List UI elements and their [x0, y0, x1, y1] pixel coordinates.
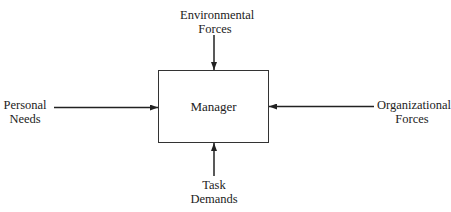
arrows — [0, 0, 451, 212]
